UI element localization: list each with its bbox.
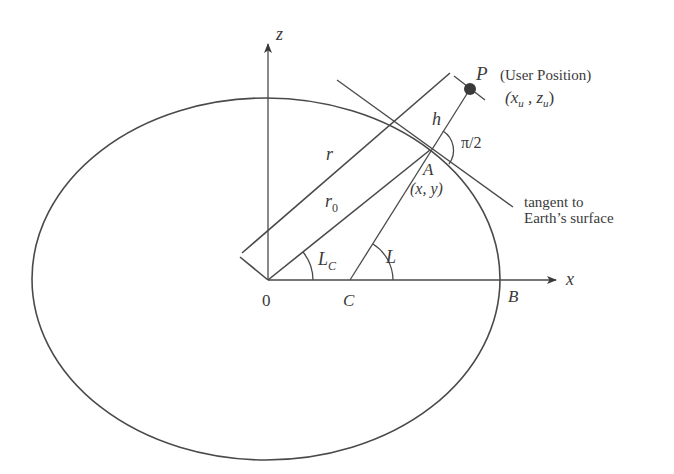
right-angle-label: π/2 xyxy=(461,134,482,151)
point-p-label: P xyxy=(475,63,488,84)
earth-latitude-diagram: z x 0 P (User Position) (xu , zu) A (x, … xyxy=(0,0,674,474)
angle-arc-right xyxy=(443,131,454,164)
angle-arc-lc xyxy=(303,252,313,280)
r-dimension-line xyxy=(242,73,450,253)
user-position-dot xyxy=(464,83,476,95)
segment-h-label: h xyxy=(432,109,441,129)
origin-label: 0 xyxy=(262,291,271,310)
x-axis-label: x xyxy=(565,269,574,289)
r0-line xyxy=(268,150,430,280)
angle-l-label: L xyxy=(385,247,396,267)
angle-lc-label: LC xyxy=(317,249,337,273)
user-position-coords: (xu , zu) xyxy=(505,88,554,109)
tangent-annotation-line1: tangent to xyxy=(524,194,584,210)
segment-r0-label: r0 xyxy=(325,191,338,215)
r-hook-bottom xyxy=(240,257,268,280)
point-b-label: B xyxy=(508,287,519,306)
tangent-annotation-line2: Earth’s surface xyxy=(524,210,614,226)
point-a-label: A xyxy=(422,160,434,179)
point-a-coords: (x, y) xyxy=(410,180,443,198)
segment-r-label: r xyxy=(326,144,334,164)
user-position-caption: (User Position) xyxy=(500,67,591,84)
point-c-label: C xyxy=(343,291,355,310)
z-axis-label: z xyxy=(275,24,283,44)
